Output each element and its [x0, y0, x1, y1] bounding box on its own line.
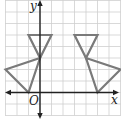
y-axis-down-arrow-icon: [37, 113, 42, 119]
y-axis-label: y: [29, 0, 37, 13]
coordinate-diagram: y x O: [0, 0, 121, 120]
original-triangle: [6, 58, 41, 93]
origin-label: O: [29, 94, 39, 108]
x-axis-label: x: [111, 93, 118, 107]
grid-lines: [5, 0, 121, 116]
image-triangle: [86, 58, 121, 93]
